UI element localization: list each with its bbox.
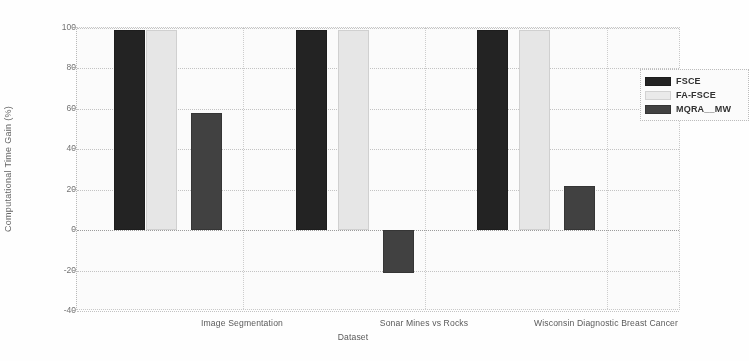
bar [383,230,414,272]
bar [338,30,369,230]
bar [564,186,595,230]
legend-item-fa-fsce: FA-FSCE [645,88,743,102]
legend-swatch-fsce [645,77,671,86]
legend-label-fsce: FSCE [676,76,701,86]
legend-label-mqra-mw: MQRA__MW [676,104,731,114]
category-gridline [243,28,244,309]
bar [191,113,222,230]
zero-line [77,230,679,231]
legend-item-fsce: FSCE [645,74,743,88]
bar [519,30,550,230]
y-axis-title: Computational Time Gain (%) [3,105,13,231]
legend-item-mqra-mw: MQRA__MW [645,102,743,116]
category-gridline [607,28,608,309]
legend: FSCE FA-FSCE MQRA__MW [640,69,749,121]
gridline [77,28,679,29]
category-gridline [425,28,426,309]
gridline [77,311,679,312]
legend-swatch-mqra-mw [645,105,671,114]
legend-swatch-fa-fsce [645,91,671,100]
bar [477,30,508,230]
bar [146,30,177,230]
y-tick-mark [72,310,76,311]
x-axis-title: Dataset [338,332,369,342]
x-tick-label: Sonar Mines vs Rocks [380,318,469,328]
x-tick-label: Image Segmentation [201,318,283,328]
x-tick-label: Wisconsin Diagnostic Breast Cancer [534,318,678,328]
bar [114,30,145,230]
bar [296,30,327,230]
gridline [77,271,679,272]
plot-area: FSCE FA-FSCE MQRA__MW [76,27,680,310]
legend-label-fa-fsce: FA-FSCE [676,90,716,100]
